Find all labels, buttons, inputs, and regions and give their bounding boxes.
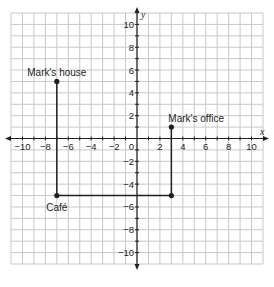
- y-axis-arrow-down: [135, 264, 140, 270]
- y-axis-label: y: [140, 9, 146, 20]
- x-axis-label: x: [259, 126, 265, 137]
- x-tick-label: 6: [203, 141, 208, 152]
- point-caf: [54, 193, 59, 198]
- y-tick-label: −10: [118, 247, 134, 258]
- x-axis-arrow-right: [263, 136, 269, 141]
- y-axis-arrow-up: [135, 7, 140, 13]
- label-mark-s-office: Mark's office: [168, 113, 224, 124]
- y-tick-label: 4: [129, 87, 134, 98]
- y-tick-label: −6: [123, 201, 134, 212]
- point-mark-s-office: [169, 124, 174, 129]
- y-tick-label: 10: [123, 19, 134, 30]
- label-caf: Café: [46, 202, 68, 213]
- x-tick-label: −2: [109, 141, 120, 152]
- origin-label: 0: [129, 141, 134, 152]
- x-tick-label: 2: [157, 141, 162, 152]
- x-tick-label: −6: [63, 141, 74, 152]
- label-mark-s-house: Mark's house: [27, 67, 87, 78]
- x-tick-label: −8: [40, 141, 51, 152]
- y-tick-label: −8: [123, 224, 134, 235]
- y-tick-label: 6: [129, 65, 134, 76]
- axes: xy: [5, 7, 269, 270]
- coordinate-plane: xy −10−8−6−4−2246810108642−2−4−6−8−100 M…: [0, 0, 274, 287]
- x-tick-label: 10: [246, 141, 257, 152]
- x-tick-label: 8: [226, 141, 231, 152]
- point-mark-s-house: [54, 79, 59, 84]
- point-corner: [169, 193, 174, 198]
- y-tick-label: −2: [123, 156, 134, 167]
- y-tick-label: 8: [129, 42, 134, 53]
- y-tick-label: 2: [129, 110, 134, 121]
- x-axis-arrow-left: [5, 136, 11, 141]
- x-tick-label: −10: [14, 141, 30, 152]
- y-tick-label: −4: [123, 179, 134, 190]
- x-tick-label: −4: [86, 141, 97, 152]
- x-tick-label: 4: [180, 141, 185, 152]
